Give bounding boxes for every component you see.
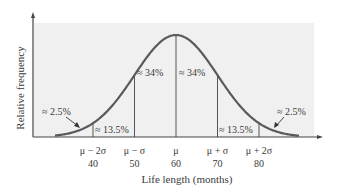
x-tick-symbol: μ − σ <box>124 145 146 156</box>
x-tick-symbol: μ + σ <box>207 145 229 156</box>
region-label-right-1-2sigma: ≈ 13.5% <box>219 124 253 135</box>
x-tick-labels: μ − 2σ40μ − σ50μ60μ + σ70μ + 2σ80 <box>80 145 273 169</box>
x-tick-symbol: μ <box>173 145 178 156</box>
x-tick-symbol: μ + 2σ <box>246 145 273 156</box>
normal-distribution-chart: Relative frequency ≈ 2.5% ≈ 13.5% ≈ 34% … <box>0 0 337 190</box>
x-tick-value: 40 <box>88 158 98 169</box>
region-label-left-tail: ≈ 2.5% <box>42 106 71 117</box>
plot-background <box>34 23 314 137</box>
region-label-left-1-2sigma: ≈ 13.5% <box>95 124 129 135</box>
x-tick-symbol: μ − 2σ <box>80 145 107 156</box>
x-axis-label: Life length (months) <box>141 173 232 186</box>
x-tick-value: 50 <box>130 158 140 169</box>
region-label-right-0-1sigma: ≈ 34% <box>179 67 205 78</box>
x-tick-value: 80 <box>254 158 264 169</box>
x-axis-arrow-icon <box>317 135 323 139</box>
y-axis-arrow-icon <box>31 12 35 18</box>
region-label-left-0-1sigma: ≈ 34% <box>137 67 163 78</box>
x-tick-value: 70 <box>213 158 223 169</box>
region-label-right-tail: ≈ 2.5% <box>277 106 306 117</box>
y-axis-label: Relative frequency <box>14 46 26 130</box>
x-tick-value: 60 <box>171 158 181 169</box>
